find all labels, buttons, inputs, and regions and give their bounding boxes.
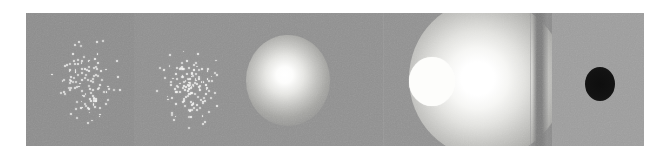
scatter-point	[91, 120, 93, 122]
scatter-point	[186, 60, 188, 62]
scatter-point	[88, 66, 90, 68]
scatter-point	[107, 86, 109, 88]
scatter-point	[64, 65, 66, 67]
scatter-point	[75, 108, 77, 110]
scatter-point	[96, 68, 98, 70]
scatter-point	[195, 80, 197, 82]
scatter-point	[97, 62, 99, 64]
scatter-point	[181, 62, 183, 64]
scatter-point	[75, 71, 77, 73]
scatter-point	[196, 83, 198, 85]
scatter-point	[99, 114, 101, 116]
scatter-point	[191, 86, 193, 88]
scatter-point	[175, 116, 177, 118]
scatter-point	[78, 41, 80, 43]
scatter-point	[187, 95, 189, 97]
scatter-point	[197, 96, 199, 98]
scatter-point	[99, 116, 101, 118]
scatter-point	[63, 79, 65, 81]
scatter-point	[87, 122, 89, 124]
scatter-point	[100, 70, 102, 72]
scatter-point	[108, 88, 110, 90]
scatter-point	[202, 102, 204, 104]
scatter-point	[195, 73, 197, 75]
scatter-point	[199, 85, 201, 87]
scatter-point	[216, 105, 218, 107]
scatter-point	[203, 97, 205, 99]
scatter-point	[89, 88, 91, 90]
scatter-point	[80, 45, 82, 47]
scatter-point	[207, 70, 209, 72]
scatter-point	[85, 93, 87, 95]
scatter-point	[194, 93, 196, 95]
scatter-point	[191, 92, 193, 94]
scatter-point	[74, 63, 76, 65]
scatter-point	[196, 109, 198, 111]
scatter-point	[69, 71, 71, 73]
scatter-point	[174, 88, 176, 90]
scatter-point	[193, 69, 195, 71]
scatter-point	[190, 116, 192, 118]
scatter-point	[211, 80, 213, 82]
seam-line-panel-4-5	[530, 13, 531, 146]
scatter-point	[70, 76, 72, 78]
scatter-point	[191, 109, 193, 111]
scatter-point	[84, 77, 86, 79]
scatter-point	[185, 80, 187, 82]
scatter-point	[77, 74, 79, 76]
scatter-point	[97, 75, 99, 77]
scatter-point	[94, 106, 96, 108]
scatter-point	[185, 86, 187, 88]
scatter-point	[90, 100, 92, 102]
scatter-point	[199, 107, 201, 109]
scatter-point	[207, 78, 209, 80]
scatter-point	[170, 81, 172, 83]
scatter-point	[117, 76, 119, 78]
scatter-point	[51, 74, 53, 76]
scatter-point	[169, 65, 171, 67]
scatter-point	[90, 92, 92, 94]
scatter-point	[99, 84, 101, 86]
scatter-point	[183, 98, 185, 100]
scatter-point	[190, 101, 192, 103]
scatter-point	[85, 74, 87, 76]
scatter-point	[214, 72, 216, 74]
scatter-point	[192, 75, 194, 77]
scatter-point	[182, 87, 184, 89]
blob-dark-disc	[585, 67, 615, 101]
scatter-point	[193, 107, 195, 109]
scatter-point	[181, 68, 183, 70]
scatter-point	[188, 116, 190, 118]
scatter-point	[107, 99, 109, 101]
scatter-point	[193, 64, 195, 66]
scatter-point	[201, 81, 203, 83]
scatter-point	[193, 85, 195, 87]
scatter-point	[81, 62, 83, 64]
dark-vertical-band	[532, 13, 548, 146]
scatter-point	[119, 89, 121, 91]
scatter-point	[208, 111, 210, 113]
scatter-point	[182, 76, 184, 78]
scatter-point	[208, 80, 210, 82]
scatter-point	[69, 63, 71, 65]
scatter-point	[99, 107, 101, 109]
scatter-point	[176, 78, 178, 80]
scatter-point	[175, 103, 177, 105]
scatter-point	[101, 79, 103, 81]
scatter-point	[93, 67, 95, 69]
scatter-point	[116, 60, 118, 62]
scatter-point	[75, 81, 77, 83]
scatter-point	[176, 85, 178, 87]
scatter-point	[195, 62, 197, 64]
scatter-point	[204, 121, 206, 123]
scatter-point	[74, 87, 76, 89]
scatter-point	[187, 84, 189, 86]
scatter-point	[80, 107, 82, 109]
scatter-point	[105, 103, 107, 105]
scatter-point	[188, 82, 190, 84]
scatter-point	[156, 90, 158, 92]
scatter-point	[92, 78, 94, 80]
scatter-point	[181, 66, 183, 68]
scatter-point	[186, 73, 188, 75]
scatter-point	[94, 58, 96, 60]
